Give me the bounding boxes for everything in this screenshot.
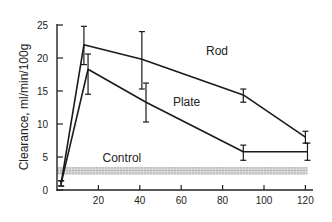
x-tick-label: 40 xyxy=(134,195,146,206)
y-tick-label: 0 xyxy=(42,185,48,196)
x-tick-label: 60 xyxy=(176,195,188,206)
x-tick-label: 20 xyxy=(93,195,105,206)
x-tick-label: 120 xyxy=(297,195,314,206)
control-band xyxy=(57,167,307,175)
y-axis-title: Clearance, ml/min/100g xyxy=(17,44,31,171)
series-label-plate: Plate xyxy=(173,95,201,109)
series-label-rod: Rod xyxy=(206,44,228,58)
clearance-chart: 0510152025 20406080100120 Clearance, ml/… xyxy=(0,0,332,222)
y-tick-label: 5 xyxy=(42,152,48,163)
y-tick-label: 20 xyxy=(37,53,49,64)
series-label-control: Control xyxy=(103,151,142,165)
y-tick-label: 25 xyxy=(37,20,49,31)
series-labels: RodPlateControl xyxy=(103,44,229,165)
y-tick-label: 15 xyxy=(37,86,49,97)
series-line xyxy=(61,69,307,183)
x-tick-label: 100 xyxy=(256,195,273,206)
series-line xyxy=(61,45,305,184)
x-tick-label: 80 xyxy=(217,195,229,206)
y-tick-label: 10 xyxy=(37,119,49,130)
x-ticks: 20406080100120 xyxy=(93,185,314,206)
